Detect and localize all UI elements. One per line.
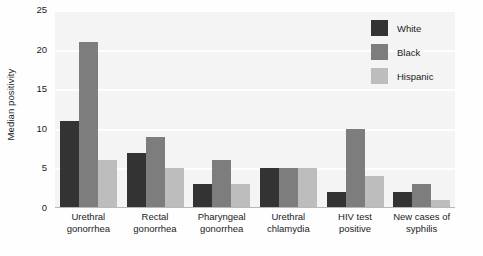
- bar: [193, 184, 212, 208]
- bar: [165, 168, 184, 208]
- y-tick-label: 10: [21, 124, 47, 134]
- x-tick-label-line: Urethral: [271, 211, 305, 222]
- x-tick-label-line: Rectal: [142, 211, 169, 222]
- legend-swatch-white: [371, 20, 388, 36]
- legend-item-label: White: [397, 23, 421, 34]
- bar: [60, 121, 79, 208]
- y-tick-label: 25: [21, 5, 47, 15]
- x-tick-label-line: Pharyngeal: [198, 211, 246, 222]
- bar: [393, 192, 412, 208]
- bar: [98, 160, 117, 208]
- x-axis-labels: UrethralgonorrheaRectalgonorrheaPharynge…: [55, 211, 455, 256]
- bar: [298, 168, 317, 208]
- legend-item[interactable]: White: [371, 18, 475, 38]
- x-tick-label-line: New cases of: [393, 211, 450, 222]
- bar: [279, 168, 298, 208]
- legend-swatch-hispanic: [371, 68, 388, 84]
- bar: [146, 137, 165, 208]
- x-axis-line: [55, 207, 455, 208]
- legend-item[interactable]: Black: [371, 42, 475, 62]
- legend-item[interactable]: Hispanic: [371, 66, 475, 86]
- x-tick-label: New cases ofsyphilis: [382, 211, 461, 234]
- bar: [231, 184, 250, 208]
- legend-item-label: Hispanic: [397, 71, 433, 82]
- y-tick-label: 20: [21, 45, 47, 55]
- bar: [260, 168, 279, 208]
- bar: [412, 184, 431, 208]
- x-tick-label-line: Urethral: [71, 211, 105, 222]
- x-tick-label-line: HIV test: [338, 211, 372, 222]
- y-axis-title-text: Median positivity: [6, 68, 17, 140]
- bar: [79, 42, 98, 208]
- bar: [327, 192, 346, 208]
- y-tick-label: 5: [21, 164, 47, 174]
- x-tick-label-line: syphilis: [382, 223, 461, 235]
- chart-legend: WhiteBlackHispanic: [371, 18, 475, 90]
- legend-item-label: Black: [397, 47, 420, 58]
- bar: [346, 129, 365, 208]
- y-tick-label: 15: [21, 84, 47, 94]
- bar: [365, 176, 384, 208]
- y-axis-title: Median positivity: [0, 0, 22, 208]
- legend-swatch-black: [371, 44, 388, 60]
- bar: [127, 153, 146, 208]
- y-axis-ticks: 0510152025: [22, 0, 52, 215]
- bar-chart: Median positivity 0510152025 Urethralgon…: [0, 0, 483, 256]
- bar: [212, 160, 231, 208]
- y-tick-label: 0: [21, 203, 47, 213]
